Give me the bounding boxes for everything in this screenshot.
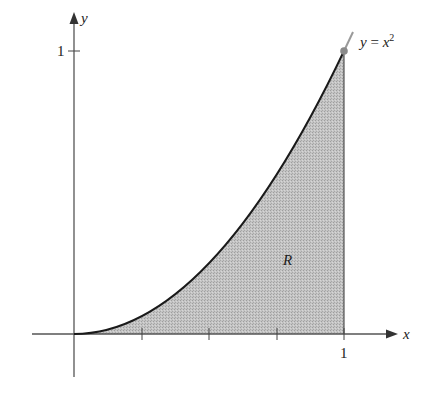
x-axis-arrow-icon	[386, 330, 398, 339]
shaded-region-r	[74, 51, 344, 334]
curve-label: y = x2	[358, 32, 394, 50]
x-tick-label: 1	[340, 345, 348, 361]
endpoint-dot	[340, 47, 348, 55]
y-axis-label: y	[79, 10, 88, 26]
graph-canvas: y 1 x 1 R y = x2	[0, 0, 437, 414]
y-tick-label: 1	[57, 43, 65, 59]
x-axis-label: x	[402, 326, 410, 342]
region-label: R	[282, 252, 292, 268]
y-axis-arrow-icon	[70, 12, 79, 24]
